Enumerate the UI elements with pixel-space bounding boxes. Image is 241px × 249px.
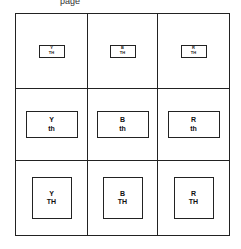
grid-cell-r2-c2: R TH (158, 161, 229, 235)
color-letter: R (191, 190, 196, 198)
label-text: TH (118, 198, 127, 206)
color-letter: Y (49, 116, 54, 124)
label-box-small-b: B TH (110, 45, 136, 58)
label-box-large-y: Y TH (32, 177, 72, 219)
label-box-medium-y: Y th (26, 111, 78, 138)
label-text: th (119, 125, 126, 133)
color-letter: R (191, 116, 196, 124)
label-box-large-r: R TH (174, 177, 214, 219)
grid-cell-r1-c2: R th (158, 89, 229, 161)
grid-cell-r2-c0: Y TH (16, 161, 88, 235)
grid-cell-r0-c2: R TH (158, 14, 229, 89)
label-text: TH (49, 51, 54, 56)
grid-cell-r1-c1: B th (88, 89, 158, 161)
label-box-small-r: R TH (181, 45, 207, 58)
color-letter: Y (49, 190, 54, 198)
label-box-medium-b: B th (97, 111, 149, 138)
label-box-medium-r: R th (168, 111, 220, 138)
color-letter: B (120, 190, 125, 198)
label-text: TH (191, 51, 196, 56)
label-text: th (48, 125, 55, 133)
label-text: TH (189, 198, 198, 206)
label-box-large-b: B TH (103, 177, 143, 219)
grid-cell-r1-c0: Y th (16, 89, 88, 161)
page-header-text: page (60, 0, 80, 6)
label-box-small-y: Y TH (39, 45, 65, 58)
label-text: TH (47, 198, 56, 206)
label-grid: Y TH B TH R TH Y th B th R th (15, 13, 230, 236)
label-text: th (190, 125, 197, 133)
grid-cell-r2-c1: B TH (88, 161, 158, 235)
label-text: TH (120, 51, 125, 56)
grid-cell-r0-c0: Y TH (16, 14, 88, 89)
grid-cell-r0-c1: B TH (88, 14, 158, 89)
color-letter: B (120, 116, 125, 124)
